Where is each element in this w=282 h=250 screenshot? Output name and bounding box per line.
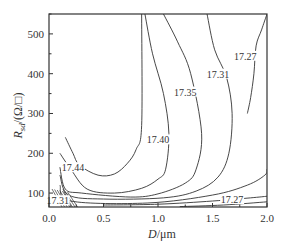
y-tick-label: 500 [28,28,45,40]
contour-label: 17.31 [46,195,69,206]
contour-label: 17.35 [174,87,197,98]
contour-line-17.31 [60,14,232,199]
x-tick-label: 1.0 [151,212,165,224]
y-tick-label: 100 [28,187,45,199]
x-tick-label: 2.0 [260,212,274,224]
x-axis-label: D/μm [147,227,176,241]
contour-line-17.27b [247,14,267,113]
x-tick-label: 0.0 [42,212,56,224]
y-tick-label: 300 [28,107,45,119]
x-tick-label: 1.5 [206,212,220,224]
contour-label: 17.27 [234,51,257,62]
contour-label: 17.31 [207,69,230,80]
contour-lines [60,14,267,207]
contour-label: 17.27 [221,194,244,205]
contour-label: 17.40 [147,134,170,145]
y-tick-label: 200 [28,147,45,159]
x-tick-label: 0.5 [97,212,111,224]
plot-frame [49,14,267,207]
contour-chart: 17.4417.4017.3517.3117.2717.2717.31 0.00… [0,0,282,250]
contour-labels: 17.4417.4017.3517.3117.2717.2717.31 [46,51,257,206]
chart-canvas: 17.4417.4017.3517.3117.2717.2717.31 0.00… [0,0,282,250]
y-tick-label: 400 [28,68,45,80]
y-axis-label: Rsd/(Ω/□) [11,92,27,139]
contour-label: 17.44 [62,162,85,173]
contour-line-17.44 [65,14,142,176]
